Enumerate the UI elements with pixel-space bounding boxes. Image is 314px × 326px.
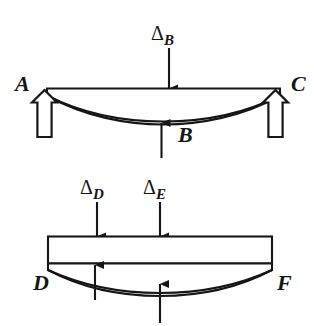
delta-subscript: E	[156, 186, 166, 202]
upper-beam-outline	[47, 89, 280, 125]
delta-glyph: Δ	[80, 176, 93, 198]
load-label-delta-D: ΔD	[80, 177, 104, 197]
load-label-delta-B: ΔB	[151, 23, 174, 43]
beam-deflection-figure: ΔB A C B ΔD ΔE D F	[0, 0, 314, 326]
lower-rigid-block	[48, 237, 272, 264]
delta-subscript: B	[164, 32, 174, 48]
delta-subscript: D	[93, 186, 104, 202]
delta-glyph: Δ	[151, 22, 164, 44]
node-label-B: B	[178, 124, 193, 146]
upper-diagram-group	[32, 48, 288, 158]
delta-glyph: Δ	[143, 176, 156, 198]
node-label-D: D	[33, 272, 49, 294]
node-label-C: C	[291, 73, 306, 95]
load-label-delta-E: ΔE	[143, 177, 166, 197]
node-label-F: F	[277, 272, 292, 294]
node-label-A: A	[15, 73, 30, 95]
lower-diagram-group	[48, 202, 272, 323]
